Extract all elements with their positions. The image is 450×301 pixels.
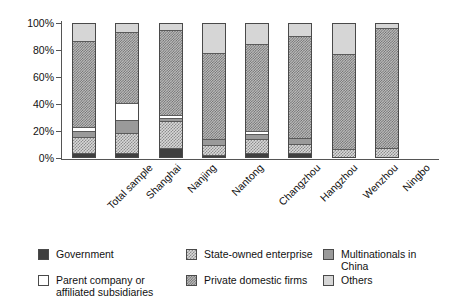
y-tick-0 [56, 158, 61, 159]
legend-label-parent-company: Parent company or affiliated subsidiarie… [56, 274, 153, 298]
stacked-bar[interactable] [288, 23, 312, 158]
bar-slot [149, 23, 192, 158]
bar-segment [116, 121, 138, 134]
legend-label-others: Others [341, 274, 373, 286]
bar-segment [73, 132, 95, 138]
bar-segment [116, 24, 138, 33]
bar-group [62, 23, 408, 158]
stacked-bar[interactable] [72, 23, 96, 158]
legend-label-state-owned-enterprise: State-owned enterprise [204, 248, 313, 260]
bar-segment [160, 31, 182, 117]
bar-segment [376, 24, 398, 29]
bar-segment [203, 54, 225, 140]
y-tick-60 [56, 77, 61, 78]
x-axis-label: Nanjing [185, 162, 218, 195]
legend-swatch-others [323, 275, 334, 286]
bar-segment [116, 104, 138, 121]
bar-segment [246, 24, 268, 45]
legend-label-multinationals: Multinationals in China [341, 248, 438, 272]
bar-segment [289, 24, 311, 37]
bar-slot [322, 23, 365, 158]
bar-segment [376, 149, 398, 157]
y-tick-40 [56, 104, 61, 105]
bar-slot [235, 23, 278, 158]
legend-swatch-parent-company [38, 275, 49, 286]
bar-segment [289, 154, 311, 157]
x-axis-label: Changzhou [277, 162, 323, 208]
stacked-bar[interactable] [245, 23, 269, 158]
chart-legend: Government State-owned enterprise Multin… [38, 248, 438, 298]
bar-slot [278, 23, 321, 158]
bar-slot [365, 23, 408, 158]
bar-segment [203, 156, 225, 157]
bar-segment [289, 139, 311, 145]
bar-segment [333, 55, 355, 151]
legend-swatch-government [38, 249, 49, 260]
legend-item-government: Government [38, 248, 114, 260]
bar-segment [73, 24, 95, 42]
bar-segment [246, 132, 268, 135]
bar-segment [160, 149, 182, 157]
bar-segment [246, 140, 268, 154]
bar-segment [246, 154, 268, 157]
bar-segment [73, 128, 95, 132]
bar-segment [160, 116, 182, 119]
legend-label-private-domestic-firms: Private domestic firms [204, 274, 307, 286]
legend-swatch-private-domestic-firms [186, 275, 197, 286]
stacked-bar[interactable] [332, 23, 356, 158]
x-axis-labels: Total sampleShanghaiNanjingNantongChangz… [62, 160, 408, 240]
stacked-bar[interactable] [159, 23, 183, 158]
x-axis-label: Ningbo [400, 162, 431, 193]
x-axis-label: Hangzhou [318, 162, 360, 204]
bar-segment [203, 146, 225, 156]
bar-segment [203, 24, 225, 54]
legend-label-government: Government [56, 248, 114, 260]
stacked-bar[interactable] [202, 23, 226, 158]
bar-segment [116, 134, 138, 154]
bar-segment [160, 24, 182, 31]
bar-slot [105, 23, 148, 158]
y-tick-label-100: 100% [0, 18, 54, 28]
y-tick-100 [56, 23, 61, 24]
bar-segment [376, 29, 398, 149]
x-axis-label: Wenzhou [360, 162, 399, 201]
y-tick-80 [56, 50, 61, 51]
legend-item-parent-company: Parent company or affiliated subsidiarie… [38, 274, 153, 298]
y-tick-label-20: 20% [0, 126, 54, 136]
y-axis-labels: 100% 80% 60% 40% 20% 0% [0, 0, 54, 175]
bar-segment [160, 119, 182, 122]
legend-item-state-owned-enterprise: State-owned enterprise [186, 248, 313, 260]
stacked-bar-chart: 100% 80% 60% 40% 20% 0% Total sampleShan… [0, 0, 450, 301]
y-tick-label-40: 40% [0, 99, 54, 109]
bar-segment [116, 33, 138, 105]
y-tick-label-60: 60% [0, 72, 54, 82]
bar-segment [289, 37, 311, 139]
y-tick-20 [56, 131, 61, 132]
bar-segment [246, 45, 268, 132]
bar-segment [73, 42, 95, 128]
legend-item-private-domestic-firms: Private domestic firms [186, 274, 307, 286]
stacked-bar[interactable] [115, 23, 139, 158]
bar-segment [73, 154, 95, 157]
bar-segment [333, 24, 355, 55]
bar-segment [203, 140, 225, 145]
bar-slot [192, 23, 235, 158]
y-tick-label-0: 0% [0, 153, 54, 163]
legend-item-others: Others [323, 274, 373, 286]
legend-swatch-multinationals [323, 249, 334, 260]
bar-segment [246, 135, 268, 140]
bar-segment [116, 154, 138, 157]
bar-segment [160, 122, 182, 149]
bar-segment [73, 138, 95, 154]
legend-swatch-state-owned-enterprise [186, 249, 197, 260]
stacked-bar[interactable] [375, 23, 399, 158]
bar-slot [62, 23, 105, 158]
x-axis-label: Nantong [229, 162, 265, 198]
bar-segment [333, 150, 355, 157]
legend-item-multinationals: Multinationals in China [323, 248, 438, 272]
bar-segment [289, 145, 311, 154]
y-tick-label-80: 80% [0, 45, 54, 55]
